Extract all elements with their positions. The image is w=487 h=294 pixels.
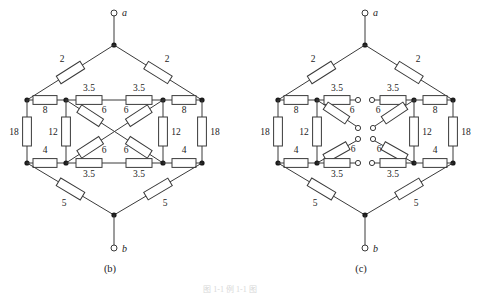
figure-caption-faint: 图 1-1 例 1-1 图	[203, 284, 256, 294]
figure-root: 2 2 8 3.5 3.5 8 18 12	[0, 0, 487, 294]
figure-caption-layer: 图 1-1 例 1-1 图	[0, 0, 487, 294]
